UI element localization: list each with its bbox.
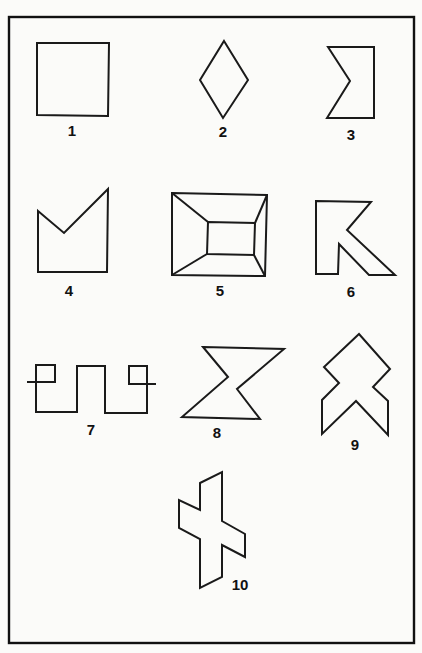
figure-10: 10 bbox=[179, 472, 248, 593]
figure-5-label: 5 bbox=[216, 282, 224, 299]
figure-8-label: 8 bbox=[213, 424, 221, 441]
figure-5-edge bbox=[172, 254, 207, 275]
figure-4-pentagon bbox=[38, 189, 108, 272]
figure-5-edge bbox=[254, 255, 265, 276]
figure-7-square-wave bbox=[27, 365, 156, 413]
figure-9-chevron-arrow bbox=[322, 334, 390, 435]
figure-6-k-shape bbox=[316, 201, 395, 275]
figure-6-label: 6 bbox=[347, 283, 355, 300]
figure-4-label: 4 bbox=[65, 282, 74, 299]
figure-3: 3 bbox=[327, 47, 374, 143]
frame-border bbox=[9, 17, 414, 643]
figure-5-inner-rect bbox=[207, 222, 255, 255]
figure-1-label: 1 bbox=[68, 122, 76, 139]
figure-9-label: 9 bbox=[351, 436, 359, 453]
figure-10-skewed-cross bbox=[179, 472, 245, 588]
figure-6: 6 bbox=[316, 201, 395, 300]
figure-2: 2 bbox=[200, 41, 248, 140]
figure-1: 1 bbox=[37, 43, 109, 139]
figure-7: 7 bbox=[27, 365, 156, 438]
figure-4: 4 bbox=[38, 189, 108, 299]
figure-1-square bbox=[37, 43, 109, 116]
figure-5-edge bbox=[255, 195, 267, 223]
figure-8-hourglass bbox=[182, 347, 284, 419]
figure-8: 8 bbox=[182, 347, 284, 441]
figure-sheet: 1 2 3 4 5 6 7 8 9 bbox=[0, 0, 422, 653]
figure-5-edge bbox=[172, 193, 208, 222]
figure-3-notched-rectangle bbox=[327, 47, 374, 118]
figure-2-label: 2 bbox=[219, 123, 227, 140]
figure-2-diamond bbox=[200, 41, 248, 118]
figure-10-label: 10 bbox=[232, 576, 249, 593]
figure-3-label: 3 bbox=[347, 126, 355, 143]
figure-7-label: 7 bbox=[87, 421, 95, 438]
figure-5: 5 bbox=[172, 193, 267, 299]
figure-9: 9 bbox=[322, 334, 390, 453]
